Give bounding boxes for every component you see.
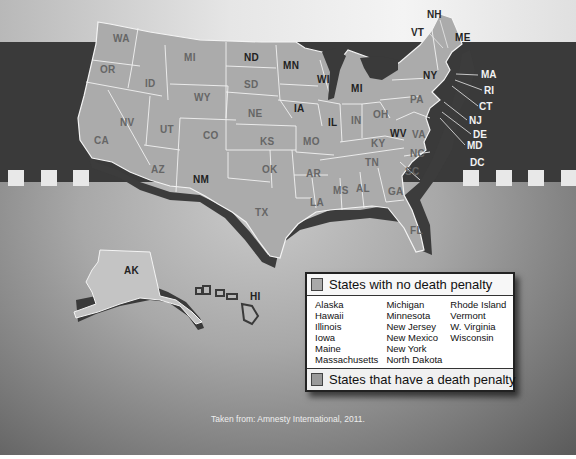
legend-state: New Mexico	[386, 332, 442, 343]
state-label-ny: NY	[423, 70, 438, 81]
legend-state: North Dakota	[386, 354, 442, 365]
legend-state: New York	[386, 343, 442, 354]
state-label-mo: MO	[303, 136, 320, 147]
legend-no-death-penalty-title: States with no death penalty	[329, 277, 492, 292]
callout-label-md: MD	[467, 140, 483, 151]
callout-label-ct: CT	[479, 101, 492, 112]
state-label-ne: NE	[248, 108, 263, 119]
legend-swatch-death-penalty	[311, 373, 323, 386]
state-label-wi: WI	[317, 74, 330, 85]
legend-column: Michigan Minnesota New Jersey New Mexico…	[386, 299, 442, 365]
state-label-id: ID	[145, 78, 156, 89]
source-caption: Taken from: Amnesty International, 2011.	[0, 414, 576, 424]
legend-swatch-no-death-penalty	[311, 278, 323, 291]
state-label-ak: AK	[124, 265, 139, 276]
state-label-wy: WY	[194, 92, 211, 103]
legend-no-death-penalty-header: States with no death penalty	[307, 274, 513, 296]
state-label-co: CO	[203, 130, 219, 141]
legend-state: Minnesota	[386, 310, 442, 321]
state-label-fl: FL	[410, 225, 423, 236]
map-canvas: WA OR ID MI WY NV UT CO CA AZ NM ND SD N…	[0, 0, 576, 455]
state-label-hi: HI	[250, 291, 261, 302]
legend-state: W. Virginia	[450, 321, 506, 332]
legend-state: Iowa	[315, 332, 378, 343]
legend-state: New Jersey	[386, 321, 442, 332]
state-label-or: OR	[100, 64, 116, 75]
legend-state-list: Alaska Hawaii Illinois Iowa Maine Massac…	[307, 296, 513, 368]
hawaii	[196, 286, 258, 324]
callout-label-nh: NH	[427, 9, 441, 20]
state-label-la: LA	[310, 197, 324, 208]
legend-state: Maine	[315, 343, 378, 354]
legend-state: Wisconsin	[450, 332, 506, 343]
state-label-nv: NV	[120, 117, 135, 128]
state-label-wa: WA	[113, 33, 130, 44]
callout-label-ri: RI	[484, 85, 494, 96]
callout-label-nj: NJ	[469, 115, 482, 126]
legend-state: Vermont	[450, 310, 506, 321]
state-label-ms: MS	[333, 185, 349, 196]
legend-state: Alaska	[315, 299, 378, 310]
state-label-tx: TX	[255, 207, 268, 218]
state-label-nm: NM	[193, 174, 209, 185]
state-label-il: IL	[328, 117, 338, 128]
state-label-ca: CA	[94, 135, 109, 146]
state-label-ok: OK	[262, 164, 278, 175]
callout-label-dc: DC	[470, 157, 484, 168]
state-label-ar: AR	[306, 168, 321, 179]
state-label-nc: NC	[410, 148, 425, 159]
legend: States with no death penalty Alaska Hawa…	[305, 272, 515, 392]
state-label-sd: SD	[244, 79, 259, 90]
callout-label-de: DE	[473, 129, 487, 140]
legend-state: Illinois	[315, 321, 378, 332]
state-label-in: IN	[351, 115, 362, 126]
state-label-tn: TN	[365, 157, 379, 168]
state-label-pa: PA	[410, 94, 424, 105]
legend-death-penalty-title: States that have a death penalty	[329, 372, 515, 387]
state-label-ga: GA	[388, 186, 404, 197]
state-label-ks: KS	[260, 136, 275, 147]
state-label-me: ME	[455, 32, 471, 43]
state-label-oh: OH	[373, 109, 389, 120]
callout-label-ma: MA	[481, 69, 497, 80]
state-label-mt: MI	[184, 52, 196, 63]
state-label-mn: MN	[283, 60, 299, 71]
state-label-va: VA	[412, 129, 426, 140]
legend-death-penalty-footer: States that have a death penalty	[307, 368, 513, 390]
legend-column: Rhode Island Vermont W. Virginia Wiscons…	[450, 299, 506, 365]
legend-state: Massachusetts	[315, 354, 378, 365]
legend-state: Rhode Island	[450, 299, 506, 310]
state-label-ia: IA	[294, 103, 305, 114]
legend-state: Michigan	[386, 299, 442, 310]
bottom-border	[0, 455, 576, 459]
state-label-ut: UT	[160, 124, 174, 135]
state-label-wv: WV	[390, 128, 407, 139]
state-label-nd: ND	[244, 52, 259, 63]
state-label-al: AL	[356, 183, 370, 194]
callout-label-vt: VT	[411, 27, 424, 38]
state-label-ky: KY	[371, 138, 386, 149]
state-label-az: AZ	[151, 164, 165, 175]
state-label-mi: MI	[351, 83, 363, 94]
legend-column: Alaska Hawaii Illinois Iowa Maine Massac…	[315, 299, 378, 365]
state-label-sc: SC	[405, 166, 420, 177]
alaska	[74, 250, 202, 324]
legend-state: Hawaii	[315, 310, 378, 321]
